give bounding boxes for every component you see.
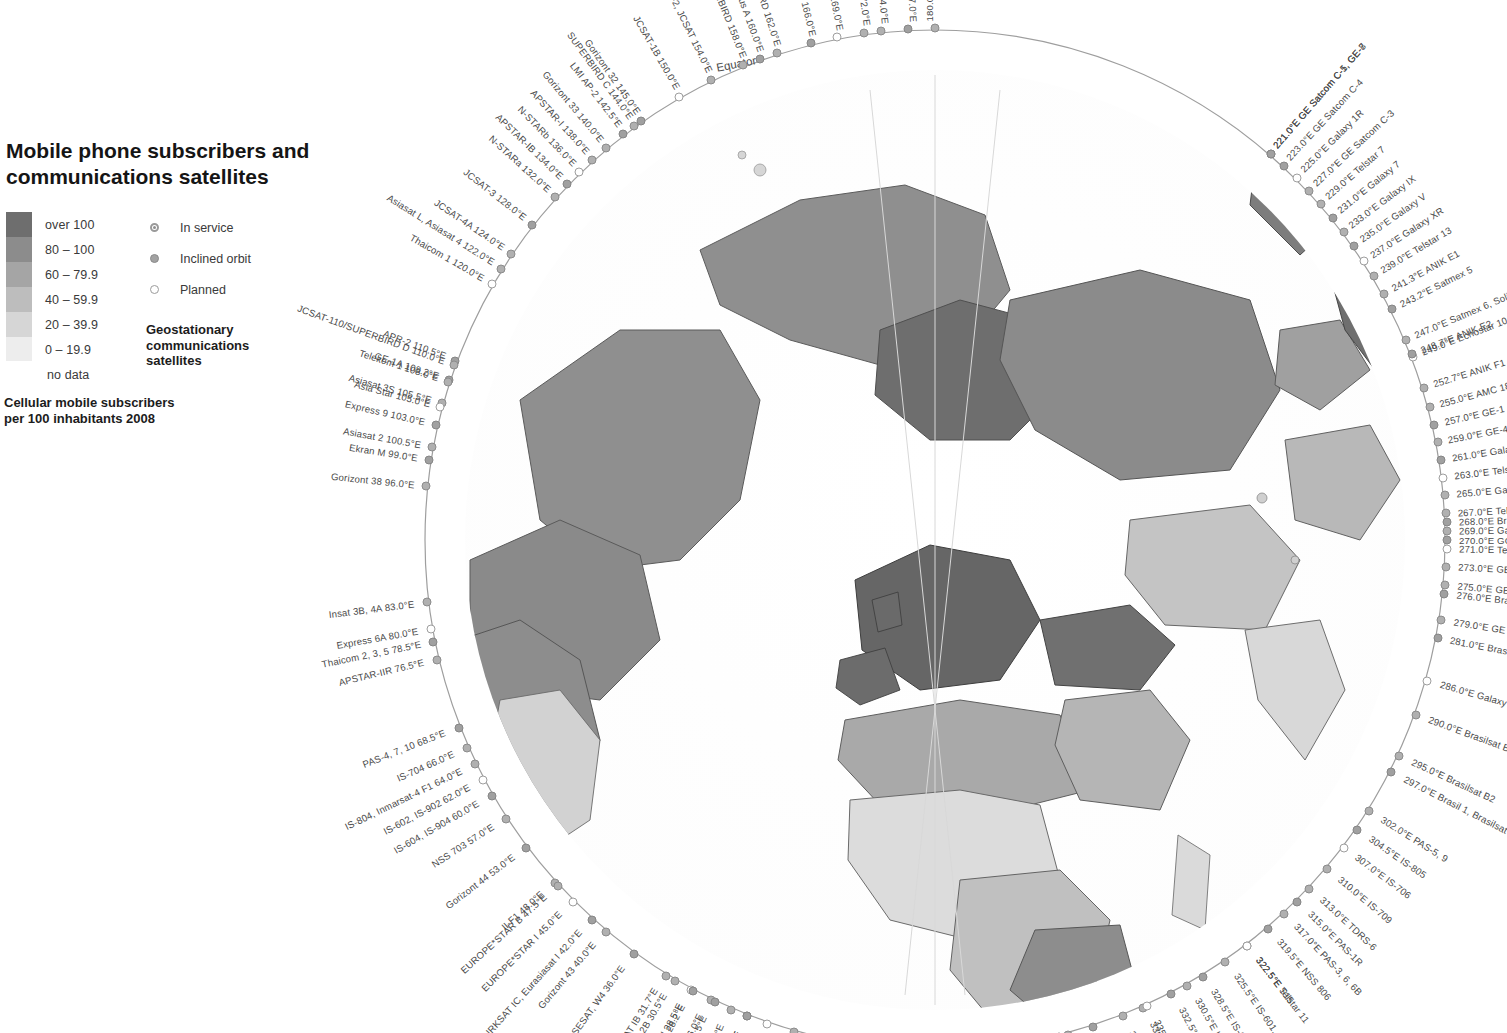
satellite-legend-label: Inclined orbit xyxy=(180,252,251,266)
satellite-legend: In serviceInclined orbitPlanned Geostati… xyxy=(146,212,346,369)
legend-label: 60 – 79.9 xyxy=(45,268,98,282)
legend-swatch xyxy=(6,212,32,237)
legend-label: no data xyxy=(47,368,89,382)
satellite-legend-row: In service xyxy=(146,212,346,243)
page-title: Mobile phone subscribers and communicati… xyxy=(6,138,366,190)
inclined-orbit-dot-icon xyxy=(146,254,162,263)
planned-dot-icon xyxy=(146,285,162,294)
map-root: Equator 180.0°E 177.0°E 174.0°E 172.0°E … xyxy=(0,0,1507,1033)
legend-swatch xyxy=(6,337,32,362)
map-caption: Cellular mobile subscribersper 100 inhab… xyxy=(4,395,175,427)
satellite-legend-row: Planned xyxy=(146,274,346,305)
legend-swatch xyxy=(6,287,32,312)
legend-label: 80 – 100 xyxy=(45,243,94,257)
in-service-dot-icon xyxy=(146,223,162,232)
satellite-legend-heading: Geostationarycommunicationssatellites xyxy=(146,322,346,369)
satellite-legend-label: Planned xyxy=(180,283,226,297)
legend-label: over 100 xyxy=(45,218,94,232)
legend-label: 20 – 39.9 xyxy=(45,318,98,332)
satellite-legend-label: In service xyxy=(180,221,234,235)
legend-label: 0 – 19.9 xyxy=(45,343,91,357)
legend-label: 40 – 59.9 xyxy=(45,293,98,307)
legend-swatch xyxy=(6,361,34,388)
legend-swatch xyxy=(6,237,32,262)
legend-swatch xyxy=(6,262,32,287)
legend-swatch xyxy=(6,312,32,337)
satellite-legend-row: Inclined orbit xyxy=(146,243,346,274)
